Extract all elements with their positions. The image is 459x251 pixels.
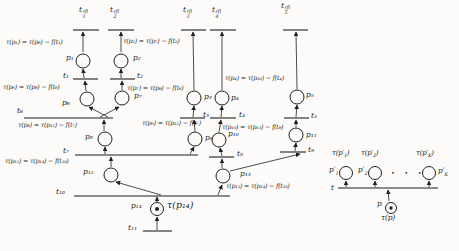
transition-label-t10: t₁₀ <box>56 188 65 196</box>
arc-t9-to-p11 <box>295 143 296 151</box>
legend-place-label-p: p <box>377 200 382 208</box>
place-p4 <box>215 91 229 105</box>
place-p10 <box>212 133 226 147</box>
formula-tau-p12: τ(p₁₂) = τ(p₁₄) − f(t₁₀) <box>5 158 69 164</box>
transition-label-t5: t₅ <box>311 112 317 120</box>
place-label-p12: p₁₂ <box>83 168 94 176</box>
place-p7 <box>115 91 129 105</box>
place-p13 <box>216 169 230 183</box>
label-t2rfl: trfl2 <box>110 6 119 20</box>
place-label-p4: p₄ <box>231 94 239 102</box>
formula-tau-p8: τ(p₈) = τ(p₁₂) − f(t₇) <box>18 122 77 128</box>
transition-label-t4: t₄ <box>239 111 245 119</box>
formula-tau-p6: τ(p₆) = τ(p₈) − f(t₆) <box>3 84 60 90</box>
transition-label-t2: t₂ <box>137 72 143 80</box>
place-label-p8: p₈ <box>85 133 93 141</box>
formula-tau-p14: τ(p₁₄) <box>167 200 193 210</box>
arc-t4-to-p4 <box>221 106 222 117</box>
formula-tau-p4: τ(p₄) = τ(p₁₀) − f(t₄) <box>225 75 284 81</box>
transition-label-t8: t₈ <box>237 150 243 158</box>
token-p14 <box>155 207 159 211</box>
place-label-p1: p₁ <box>66 54 74 62</box>
arc-t8-to-p10 <box>220 148 222 156</box>
place-p9 <box>188 132 202 146</box>
arc-p5-to-t5rfl <box>296 32 297 89</box>
arc-t6-to-p6 <box>89 107 108 117</box>
timed-petri-net-figure: trfl1 trfl2 trfl3 trfl4 trfl5 τ(p₁) = τ(… <box>0 0 459 251</box>
legend-place-label-pK: p′K <box>438 167 448 175</box>
place-label-p9: p₉ <box>205 134 213 142</box>
arc-t5-to-p5 <box>296 105 297 117</box>
arc-p6-to-t1 <box>85 81 86 91</box>
arc-t1-to-p1 <box>83 69 84 78</box>
legend-place-p2 <box>369 167 382 180</box>
place-label-p5: p₅ <box>306 91 314 99</box>
formula-tau-p9: τ(p₉) = τ(p₁₂) − f(t₇) <box>142 120 201 126</box>
transition-label-t11: t₁₁ <box>128 224 137 232</box>
arc-p10-to-t4 <box>219 120 221 132</box>
legend-tau-pK-label: τ(p′K) <box>416 150 434 157</box>
place-label-p7: p₇ <box>134 92 142 100</box>
arc-legend-p-to-t <box>388 190 389 201</box>
legend-place-label-p2: p′2 <box>358 166 368 174</box>
formula-tau-p1: τ(p₁) = τ(p₆) − f(t₁) <box>6 39 63 45</box>
place-p1 <box>76 54 90 68</box>
legend-ellipsis: • • • <box>391 170 425 176</box>
place-p11 <box>289 128 303 142</box>
place-label-p11: p₁₁ <box>306 131 317 139</box>
place-label-p2: p₂ <box>133 54 141 62</box>
transition-label-t3: t₃ <box>203 111 209 119</box>
place-p5 <box>290 90 304 104</box>
legend-place-p1 <box>340 167 353 180</box>
label-t1rfl: trfl1 <box>79 6 88 20</box>
legend-tau-p1-label: τ(p′1) <box>332 150 349 157</box>
legend-place-label-p1: p′1 <box>329 166 339 174</box>
place-label-p14: p₁₄ <box>131 202 142 210</box>
arc-t6-to-p7 <box>100 107 119 117</box>
arc-t10-to-p13 <box>218 185 222 195</box>
arc-t10-to-p12 <box>116 182 161 195</box>
arc-t7-to-p9 <box>190 147 194 154</box>
place-label-p10: p₁₀ <box>228 130 239 138</box>
transition-label-t6: t₆ <box>17 107 23 115</box>
transition-label-t1: t₁ <box>63 72 69 80</box>
place-p6 <box>80 92 94 106</box>
place-label-p6: p₆ <box>62 99 70 107</box>
place-p2 <box>114 54 128 68</box>
token-legend-p <box>389 206 392 209</box>
label-t4rfl: trfl4 <box>212 6 221 20</box>
place-label-p13: p₁₃ <box>240 170 251 178</box>
place-p12 <box>104 168 118 182</box>
legend-tau-p2-label: τ(p′2) <box>361 150 378 157</box>
formula-tau-p13: τ(p₁₃) = τ(p₁₄) − f(t₁₀) <box>226 183 290 189</box>
label-t3rfl: trfl3 <box>183 6 192 20</box>
place-p3 <box>187 91 201 105</box>
arc-t3-to-p3 <box>193 106 194 117</box>
place-p8 <box>98 132 112 146</box>
legend-tau-p-label: τ(p) <box>381 214 395 222</box>
arc-p3-to-t3rfl <box>193 32 194 90</box>
transition-label-t9: t₉ <box>308 146 314 154</box>
formula-tau-p2: τ(p₂) = τ(p₇) − f(t₂) <box>123 38 180 44</box>
place-label-p3: p₃ <box>204 93 212 101</box>
transition-label-t7: t₇ <box>63 147 69 155</box>
label-t5rfl: trfl5 <box>281 2 290 16</box>
legend-transition-label-t: t <box>331 184 334 192</box>
